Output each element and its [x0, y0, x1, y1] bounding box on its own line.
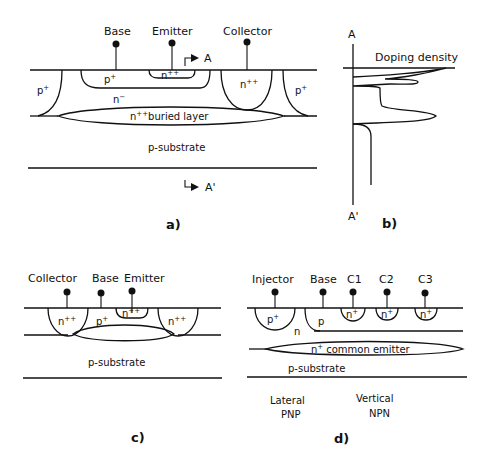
label-base: Base: [310, 273, 337, 286]
label-epi-region: n−: [113, 93, 125, 105]
caption-c: c): [131, 430, 145, 445]
terminal-collector[interactable]: [64, 289, 71, 309]
caption-b: b): [382, 216, 397, 231]
base-region: [81, 70, 210, 88]
label-collector-right-region: n++: [168, 315, 186, 327]
label-injector: Injector: [252, 273, 294, 286]
terminal-collector[interactable]: [244, 39, 251, 71]
label-substrate: p-substrate: [88, 357, 145, 368]
label-emitter-region: n++: [161, 69, 179, 81]
label-n-region: n: [294, 326, 300, 337]
substrate-doping-curve: [353, 124, 371, 185]
label-npn: NPN: [369, 408, 390, 419]
terminal-c2[interactable]: [384, 289, 391, 309]
label-collector: Collector: [28, 272, 77, 285]
label-emitter: Emitter: [152, 25, 193, 38]
terminal-base[interactable]: [113, 41, 120, 71]
label-substrate: p-substrate: [148, 142, 205, 153]
terminal-base[interactable]: [320, 289, 327, 309]
collector-contact-region: [221, 70, 272, 110]
terminal-base[interactable]: [98, 290, 105, 309]
label-pnp: PNP: [281, 409, 301, 420]
panel-b-doping-profile: A A' Doping density b): [343, 28, 459, 231]
label-c3: C3: [418, 273, 433, 286]
caption-d: d): [334, 431, 349, 446]
label-vertical: Vertical: [356, 393, 393, 404]
terminal-injector[interactable]: [272, 289, 279, 309]
label-axis-a-prime: A': [348, 210, 359, 223]
buried-layer: [73, 325, 174, 341]
terminal-c3[interactable]: [422, 290, 429, 309]
label-common-emitter: n+common emitter: [311, 343, 411, 355]
label-emitter: Emitter: [124, 272, 165, 285]
label-base-region: p+: [104, 73, 116, 85]
doping-profile-curve: [353, 68, 446, 124]
panel-c-cross-section: Collector Base Emitter n++ p+ n++ n++ p-…: [23, 272, 222, 445]
label-collector: Collector: [223, 25, 272, 38]
label-axis-a: A: [348, 28, 356, 41]
caption-a: a): [166, 217, 181, 232]
label-c2-region: n+: [381, 308, 393, 320]
panel-a-cross-section: Base Emitter Collector A A' p+ n++ n− n+…: [28, 25, 317, 232]
label-substrate: p-substrate: [288, 363, 345, 374]
label-collector-left-region: n++: [58, 315, 76, 327]
label-base: Base: [92, 272, 119, 285]
label-c1-region: n+: [346, 308, 358, 320]
label-isolation-right: p+: [295, 84, 307, 96]
label-buried-layer: n++buried layer: [130, 110, 209, 122]
panel-d-i2l-cross-section: Injector Base C1 C2 C3 p+ n p n+ n+ n+ n…: [247, 273, 467, 446]
label-doping-density: Doping density: [375, 51, 459, 64]
label-isolation-left: p+: [37, 84, 49, 96]
bipolar-transistor-figure: Base Emitter Collector A A' p+ n++ n− n+…: [0, 0, 487, 467]
label-base-region: p: [318, 316, 324, 327]
label-section-a-prime: A': [205, 181, 216, 194]
label-c2: C2: [379, 273, 394, 286]
label-base: Base: [104, 25, 131, 38]
label-lateral: Lateral: [270, 395, 305, 406]
terminal-emitter[interactable]: [169, 40, 176, 71]
label-section-a: A: [204, 52, 212, 65]
label-c3-region: n+: [420, 308, 432, 320]
label-c1: C1: [347, 273, 362, 286]
label-emitter-region: n++: [122, 307, 140, 319]
terminal-c1[interactable]: [350, 289, 357, 309]
section-arrow-a-icon: [185, 58, 197, 66]
label-injector-region: p+: [267, 313, 279, 325]
label-collector-region: n++: [240, 78, 258, 90]
section-arrow-a-prime-icon: [185, 180, 197, 187]
